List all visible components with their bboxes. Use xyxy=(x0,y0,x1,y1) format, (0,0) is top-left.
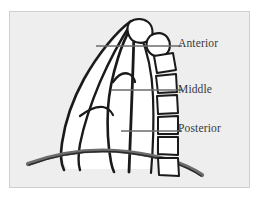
vertebra-body-1 xyxy=(154,53,176,73)
label-anterior: Anterior xyxy=(178,38,218,50)
vertebra-body-6 xyxy=(158,158,179,176)
vertebra-apex-2 xyxy=(146,33,169,56)
label-posterior: Posterior xyxy=(178,123,221,135)
label-middle: Middle xyxy=(178,84,212,96)
figure-canvas: Anterior Middle Posterior xyxy=(0,0,259,199)
vertebra-body-5 xyxy=(158,137,178,155)
vertebra-body-3 xyxy=(157,95,178,114)
